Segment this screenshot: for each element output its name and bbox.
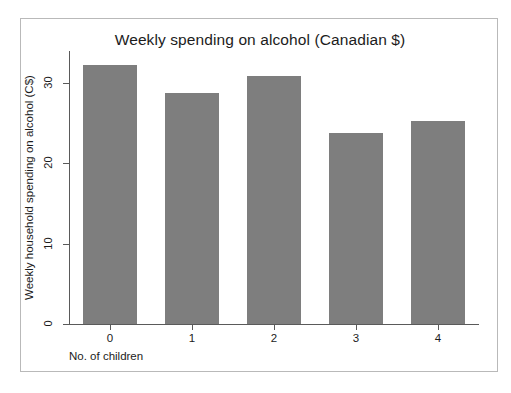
x-tick-label: 0 [90,332,130,344]
x-tick-label: 1 [172,332,212,344]
bar [411,121,465,324]
chart-page: Weekly spending on alcohol (Canadian $) … [0,0,511,393]
y-tick-label: 20 [43,152,54,174]
y-tick-mark [63,324,69,325]
bar [329,133,383,324]
bar [247,76,301,324]
y-axis-title: Weekly household spending on alcohol (C$… [22,51,36,324]
y-tick-mark [63,83,69,84]
bar [83,65,137,324]
bar [165,93,219,324]
x-tick-label: 4 [418,332,458,344]
graph-frame: Weekly spending on alcohol (Canadian $) … [20,18,498,372]
chart-title: Weekly spending on alcohol (Canadian $) [21,31,499,49]
x-tick-label: 3 [336,332,376,344]
x-tick-mark [110,325,111,330]
plot-area: 0102030 01234 Weekly household spending … [69,51,479,324]
y-axis-line [69,51,70,324]
y-tick-mark [63,163,69,164]
y-tick-label: 0 [43,313,54,335]
y-tick-label: 10 [43,232,54,254]
y-tick-label: 30 [43,72,54,94]
x-tick-mark [438,325,439,330]
x-tick-mark [274,325,275,330]
x-tick-mark [356,325,357,330]
x-tick-label: 2 [254,332,294,344]
x-axis-title: No. of children [69,350,143,362]
y-tick-mark [63,244,69,245]
x-tick-mark [192,325,193,330]
